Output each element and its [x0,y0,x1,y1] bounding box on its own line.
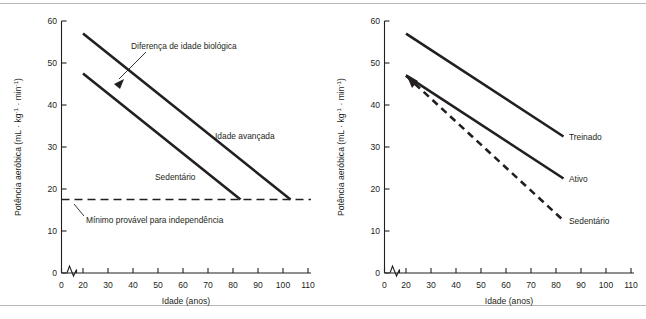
right-series-label-sedentario: Sedentário [569,216,610,226]
right-x-ticks [385,268,632,273]
x-tick-40: 40 [451,280,461,290]
y-tick-0: 0 [52,268,57,278]
left-x-tick-labels: 0 20 30 40 50 60 70 80 90 100 110 [59,280,315,290]
x-tick-100: 100 [276,280,291,290]
right-x-tick-labels: 0 20 30 40 50 60 70 80 90 100 110 [382,280,638,290]
x-tick-70: 70 [526,280,536,290]
x-tick-40: 40 [128,280,138,290]
left-series-label-sedentario: Sedentário [155,172,196,182]
chart-panel-left: 0 10 20 30 40 50 60 [0,0,323,319]
left-plot-svg: 0 10 20 30 40 50 60 [0,0,323,319]
x-tick-110: 110 [624,280,638,290]
x-tick-80: 80 [228,280,238,290]
x-tick-70: 70 [203,280,213,290]
left-x-ticks [62,268,309,273]
right-series-sedentario-line [406,76,564,221]
left-annotation-minimo: Mínimo provável para independência [86,215,224,225]
chart-panels: 0 10 20 30 40 50 60 [0,0,646,319]
right-y-tick-labels: 0 10 20 30 40 50 60 [370,16,380,278]
left-axis-break-icon [67,266,77,276]
x-tick-90: 90 [253,280,263,290]
x-tick-110: 110 [301,280,315,290]
left-series-label-idade-avancada: Idade avançada [215,131,275,141]
right-y-ticks [385,21,390,273]
left-y-ticks [62,21,67,273]
left-minimo-leader [74,204,84,216]
x-tick-0: 0 [59,280,64,290]
right-series-treinado-line [406,34,564,137]
y-tick-0: 0 [375,268,380,278]
x-tick-60: 60 [178,280,188,290]
left-y-axis-title: Potência aeróbica (mL · kg-1 · min-1) [12,78,23,216]
right-series-label-treinado: Treinado [569,132,602,142]
x-tick-30: 30 [426,280,436,290]
x-tick-50: 50 [153,280,163,290]
chart-panel-right: 0 10 20 30 40 50 60 [323,0,646,319]
y-tick-50: 50 [47,58,57,68]
x-tick-20: 20 [78,280,88,290]
y-tick-40: 40 [47,100,57,110]
x-tick-90: 90 [576,280,586,290]
y-tick-20: 20 [370,184,380,194]
right-x-axis-title: Idade (anos) [485,296,533,306]
left-x-axis-title: Idade (anos) [162,296,210,306]
y-tick-30: 30 [370,142,380,152]
y-tick-30: 30 [47,142,57,152]
left-annotation-diferenca: Diferença de idade biológica [131,41,237,51]
y-tick-60: 60 [370,16,380,26]
y-tick-40: 40 [370,100,380,110]
right-axis-break-icon [390,266,400,276]
right-series-label-ativo: Ativo [569,174,588,184]
y-tick-50: 50 [370,58,380,68]
y-tick-20: 20 [47,184,57,194]
x-tick-60: 60 [501,280,511,290]
right-y-axis-title: Potência aeróbica (mL · kg-1 · min-1) [335,78,346,216]
x-tick-100: 100 [599,280,614,290]
y-tick-10: 10 [47,226,57,236]
y-tick-10: 10 [370,226,380,236]
x-tick-50: 50 [476,280,486,290]
x-tick-30: 30 [103,280,113,290]
x-tick-80: 80 [551,280,561,290]
x-tick-20: 20 [401,280,411,290]
right-series-ativo-line [406,76,564,179]
left-diferenca-arrowhead [114,79,124,89]
y-tick-60: 60 [47,16,57,26]
x-tick-0: 0 [382,280,387,290]
left-y-tick-labels: 0 10 20 30 40 50 60 [47,16,57,278]
right-plot-svg: 0 10 20 30 40 50 60 [323,0,646,319]
